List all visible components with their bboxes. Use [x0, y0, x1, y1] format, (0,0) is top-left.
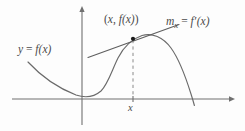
curve-label-arg: (x) — [39, 43, 52, 55]
curve-label-equals: = — [23, 43, 35, 55]
point-label-close: ) — [135, 13, 139, 25]
y-axis — [79, 6, 84, 125]
x-axis — [12, 96, 235, 101]
point-coordinate-label: (x, f(x)) — [104, 14, 139, 26]
derivative-tangent-diagram: y = f(x) (x, f(x)) mx = f′(x) x — [0, 0, 245, 131]
slope-label-arg: (x) — [197, 15, 210, 27]
function-curve — [28, 35, 194, 106]
x-axis-arrowhead — [229, 96, 235, 101]
x-tick-label: x — [128, 103, 133, 114]
slope-equation-label: mx = f′(x) — [166, 16, 210, 29]
point-label-arg: (x) — [122, 13, 135, 25]
curve-label: y = f(x) — [18, 44, 51, 56]
tangency-point-marker — [131, 37, 135, 41]
slope-label-equals: = — [178, 15, 190, 27]
y-axis-arrowhead — [79, 6, 84, 12]
